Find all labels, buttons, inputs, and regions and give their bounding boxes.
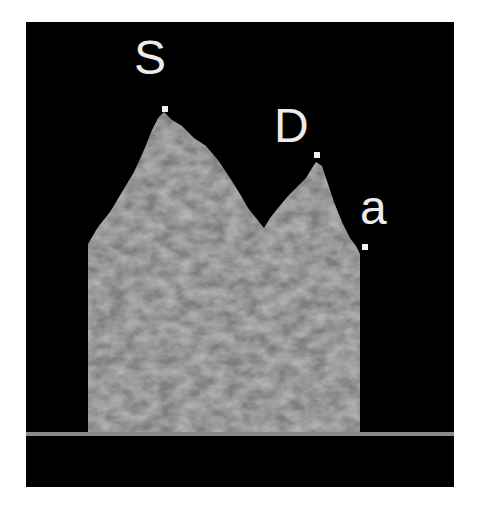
marker-a-wave	[362, 244, 368, 250]
spectral-waveform	[26, 22, 454, 487]
label-s-peak: S	[134, 34, 166, 82]
label-a-wave: a	[360, 184, 387, 232]
doppler-spectrum-panel: S D a	[26, 22, 454, 487]
marker-s-peak	[162, 106, 168, 112]
marker-d-peak	[314, 152, 320, 158]
zero-baseline	[26, 432, 454, 436]
label-d-peak: D	[274, 102, 309, 150]
